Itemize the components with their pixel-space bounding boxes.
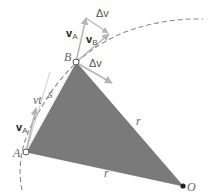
label-s: s bbox=[48, 87, 53, 101]
label-delta-v-top: Δv bbox=[96, 7, 109, 19]
label-r-bottom: r bbox=[104, 166, 109, 180]
label-vt: vt bbox=[33, 93, 42, 107]
label-vA-top: vA bbox=[66, 27, 78, 41]
label-B: B bbox=[64, 50, 72, 64]
label-vB: vB bbox=[86, 33, 97, 47]
label-r-right: r bbox=[136, 114, 141, 128]
point-B-marker bbox=[73, 59, 79, 65]
point-A-marker bbox=[23, 149, 29, 155]
point-O-marker bbox=[180, 183, 185, 188]
label-vA-bottom: vA bbox=[16, 121, 28, 135]
label-O: O bbox=[187, 180, 196, 194]
uniform-circular-motion-diagram: B A O vA vB Δv Δv vA vt s r r bbox=[0, 0, 211, 195]
label-delta-v-mid: Δv bbox=[89, 57, 102, 69]
delta-v-vector-top bbox=[86, 18, 108, 33]
label-A: A bbox=[12, 146, 21, 160]
